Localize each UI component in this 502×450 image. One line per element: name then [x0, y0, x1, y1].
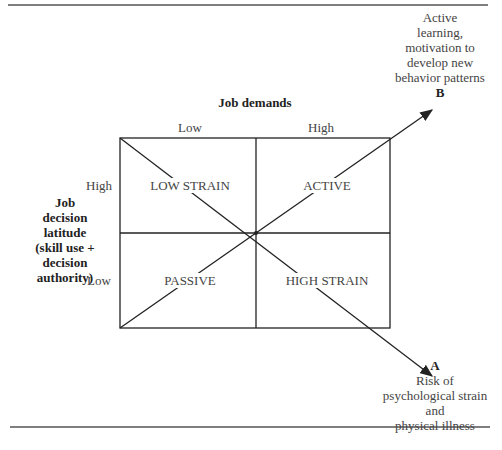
- outcome-a-text: A Risk of psychological strain and physi…: [375, 358, 495, 433]
- x-axis-high-label: High: [301, 120, 341, 135]
- y-axis-high-label: High: [84, 178, 114, 193]
- diagonal-learning: [120, 110, 432, 328]
- diagonal-strain: [120, 138, 432, 376]
- x-axis-low-label: Low: [170, 120, 210, 135]
- arrow-b-letter: B: [380, 85, 500, 100]
- quadrant-high-strain: HIGH STRAIN: [280, 273, 374, 288]
- center-point: [254, 231, 258, 235]
- quadrant-active: ACTIVE: [295, 178, 359, 193]
- arrow-a-letter: A: [375, 358, 495, 373]
- outcome-b-text: Active learning, motivation to develop n…: [380, 10, 500, 100]
- x-axis-title: Job demands: [205, 95, 305, 110]
- quadrant-low-strain: LOW STRAIN: [145, 178, 235, 193]
- quadrant-passive: PASSIVE: [156, 273, 224, 288]
- y-axis-title: Job decision latitude (skill use + decis…: [30, 195, 100, 285]
